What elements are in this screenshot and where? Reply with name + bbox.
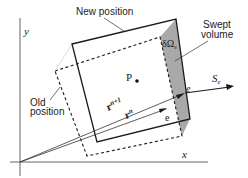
r-n-label: rn <box>123 107 135 121</box>
s-e-arrowhead <box>226 84 234 90</box>
old-position-label-line2: position <box>30 106 64 117</box>
point-p-label: P <box>126 71 132 83</box>
s-e-vector <box>185 87 230 93</box>
y-axis-label: y <box>23 25 29 37</box>
old-position-leader <box>50 87 60 100</box>
point-e-new-label: e <box>186 83 191 94</box>
r-n-plus-1-label: rn+1 <box>104 96 124 113</box>
new-position-label: New position <box>76 6 133 17</box>
swept-volume-label-line2: volume <box>201 29 234 40</box>
point-e-old-label: e <box>165 112 170 123</box>
point-p-dot <box>135 79 139 83</box>
x-axis-label: x <box>181 148 187 160</box>
trace-line <box>55 44 72 71</box>
s-e-label: Se <box>212 72 221 86</box>
new-position-leader <box>104 18 124 31</box>
swept-volume-diagram: y x P e e Se δΩe rn+1 rn New position Ol… <box>0 0 248 178</box>
